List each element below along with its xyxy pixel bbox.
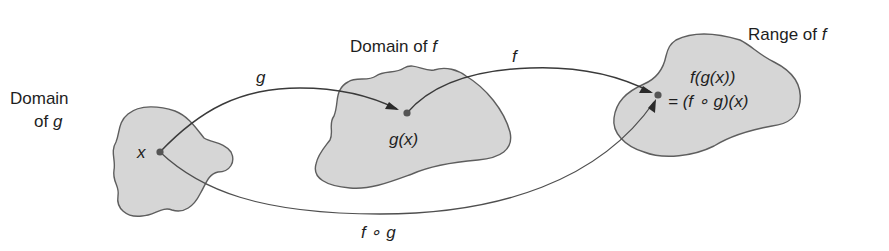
domain-of-g-label-line1: Domain — [10, 89, 69, 108]
domain-of-f-region — [315, 66, 510, 188]
point-f-of-g-of-x-label: f(g(x)) — [690, 68, 735, 87]
point-g-of-x-label: g(x) — [389, 130, 418, 149]
range-of-f-label: Range of f — [748, 25, 829, 44]
function-composition-diagram: Domain of g x Domain of f g(x) Range of … — [0, 0, 889, 251]
domain-of-f-label: Domain of f — [350, 37, 439, 56]
composite-value-label: = (f ∘ g)(x) — [668, 92, 748, 111]
arrow-g-label: g — [256, 68, 266, 87]
domain-of-g-region — [113, 107, 233, 216]
domain-of-g-label-line2: of g — [34, 112, 63, 131]
point-x-label: x — [136, 143, 146, 162]
point-x — [156, 148, 163, 155]
point-g-of-x — [403, 109, 410, 116]
point-f-of-g-of-x — [654, 91, 661, 98]
arrow-f-label: f — [512, 47, 519, 66]
arrow-composite-label: f ∘ g — [361, 223, 396, 242]
